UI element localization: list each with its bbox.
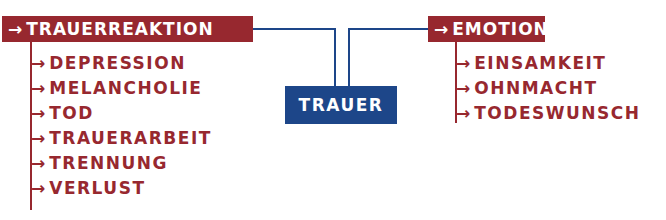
connector-left-h <box>252 28 336 30</box>
list-item: →TOD <box>31 101 94 125</box>
connector-right-v <box>348 28 350 86</box>
arrow-right-icon: → <box>31 76 45 100</box>
category-header-emotionen: →EMOTIONEN <box>428 16 545 42</box>
category-header-trauerreaktion: →TRAUERREAKTION <box>2 16 253 42</box>
list-item: →TRAUERARBEIT <box>31 126 212 150</box>
arrow-right-icon: → <box>31 51 45 75</box>
list-item: →DEPRESSION <box>31 51 186 75</box>
arrow-right-icon: → <box>456 51 470 75</box>
arrow-right-icon: → <box>434 16 448 42</box>
arrow-right-icon: → <box>31 176 45 200</box>
arrow-right-icon: → <box>31 101 45 125</box>
arrow-right-icon: → <box>8 16 22 42</box>
list-item: →EINSAMKEIT <box>456 51 606 75</box>
arrow-right-icon: → <box>31 151 45 175</box>
arrow-right-icon: → <box>456 101 470 125</box>
center-node-trauer: TRAUER <box>285 86 397 124</box>
arrow-right-icon: → <box>456 76 470 100</box>
connector-right-h <box>348 28 428 30</box>
list-item: →TRENNUNG <box>31 151 168 175</box>
list-item: →MELANCHOLIE <box>31 76 202 100</box>
list-item: →TODESWUNSCH <box>456 101 641 125</box>
list-item: →OHNMACHT <box>456 76 598 100</box>
list-item: →VERLUST <box>31 176 145 200</box>
connector-left-v <box>334 28 336 86</box>
arrow-right-icon: → <box>31 126 45 150</box>
